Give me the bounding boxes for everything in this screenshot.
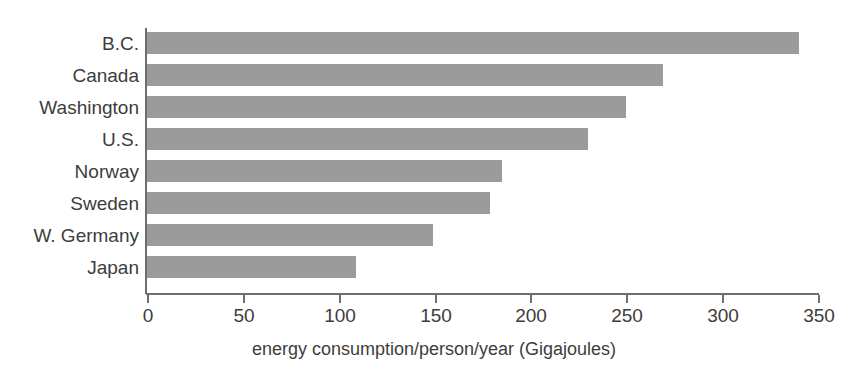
x-axis-tick — [243, 295, 245, 303]
category-label: U.S. — [0, 129, 139, 151]
category-label: Japan — [0, 257, 139, 279]
bar — [147, 128, 588, 150]
category-label: Norway — [0, 161, 139, 183]
bar — [147, 160, 502, 182]
x-axis-tick-label: 150 — [401, 305, 471, 327]
bar — [147, 256, 356, 278]
bar — [147, 96, 626, 118]
x-axis-tick-label: 250 — [592, 305, 662, 327]
x-axis-line — [146, 293, 819, 295]
category-label: Canada — [0, 65, 139, 87]
x-axis-tick — [626, 295, 628, 303]
bar — [147, 192, 490, 214]
x-axis-tick-label: 50 — [209, 305, 279, 327]
category-label: B.C. — [0, 33, 139, 55]
x-axis-tick-label: 0 — [113, 305, 183, 327]
x-axis-tick-label: 350 — [784, 305, 854, 327]
bar — [147, 32, 799, 54]
x-axis-tick-label: 100 — [305, 305, 375, 327]
x-axis-tick-label: 300 — [688, 305, 758, 327]
bar — [147, 224, 433, 246]
x-axis-title: energy consumption/person/year (Gigajoul… — [0, 339, 868, 360]
category-label: Sweden — [0, 193, 139, 215]
plot-area: B.C.CanadaWashingtonU.S.NorwaySwedenW. G… — [0, 0, 868, 381]
x-axis-tick — [339, 295, 341, 303]
category-label: Washington — [0, 97, 139, 119]
bar — [147, 64, 663, 86]
x-axis-tick — [722, 295, 724, 303]
x-axis-tick — [818, 295, 820, 303]
x-axis-tick — [435, 295, 437, 303]
x-axis-tick — [530, 295, 532, 303]
x-axis-tick-label: 200 — [496, 305, 566, 327]
category-label: W. Germany — [0, 225, 139, 247]
bar-chart: B.C.CanadaWashingtonU.S.NorwaySwedenW. G… — [0, 0, 868, 381]
x-axis-tick — [147, 295, 149, 303]
